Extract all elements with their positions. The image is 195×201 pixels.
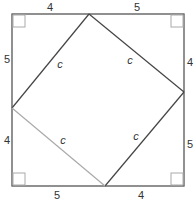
label-hyp-bottom-left: c bbox=[60, 134, 66, 146]
label-top-left: 4 bbox=[47, 1, 53, 13]
right-angle-marker-top-right bbox=[171, 15, 183, 27]
hypotenuse-bottom-left bbox=[12, 108, 105, 186]
hypotenuse-top-right bbox=[89, 14, 184, 92]
label-bottom-right: 4 bbox=[138, 189, 144, 201]
label-right-top: 4 bbox=[187, 56, 193, 68]
pythagorean-diagram: 4 5 4 5 4 5 4 5 c c c c bbox=[0, 0, 195, 201]
hypotenuse-bottom-right bbox=[105, 92, 184, 186]
hypotenuse-top-left bbox=[12, 14, 89, 108]
right-angle-marker-top-left bbox=[13, 15, 25, 27]
label-right-bottom: 5 bbox=[187, 138, 193, 150]
right-angle-marker-bottom-left bbox=[13, 173, 25, 185]
label-hyp-top-right: c bbox=[127, 54, 133, 66]
outer-square bbox=[12, 14, 184, 186]
right-angle-marker-bottom-right bbox=[171, 173, 183, 185]
label-left-top: 5 bbox=[4, 53, 10, 65]
label-bottom-left: 5 bbox=[54, 189, 60, 201]
label-hyp-top-left: c bbox=[57, 58, 63, 70]
label-top-right: 5 bbox=[134, 1, 140, 13]
label-left-bottom: 4 bbox=[4, 134, 10, 146]
label-hyp-bottom-right: c bbox=[133, 130, 139, 142]
